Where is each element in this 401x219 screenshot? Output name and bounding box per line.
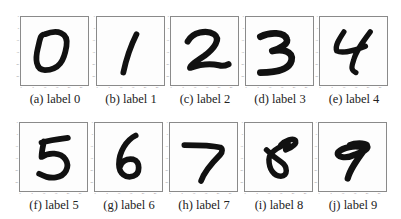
tick: 10 [44, 87, 47, 90]
y-axis-ticks: 0 5 10 15 20 25 [239, 16, 244, 86]
tick: 5 [18, 28, 19, 31]
x-axis-ticks: 0 5 10 15 20 25 [169, 193, 238, 197]
tick: 10 [269, 87, 272, 90]
handwritten-six-image [95, 123, 162, 191]
tick: 20 [166, 170, 169, 173]
x-axis-ticks: 0 5 10 15 20 25 [20, 87, 89, 91]
x-axis-ticks: 0 5 10 15 20 25 [170, 87, 239, 91]
tick: 25 [305, 87, 308, 90]
y-axis-ticks: 0 5 10 15 20 25 [312, 122, 317, 192]
digit-image-frame [245, 16, 314, 86]
tick: 0 [245, 87, 246, 90]
panel-caption: (d) label 3 [239, 92, 321, 107]
y-axis-ticks: 0 5 10 15 20 25 [13, 122, 18, 192]
tick: 20 [242, 64, 245, 67]
tick: 20 [17, 64, 20, 67]
tick: 0 [19, 193, 20, 196]
tick: 15 [281, 87, 284, 90]
tick: 5 [167, 134, 168, 137]
tick: 20 [68, 87, 71, 90]
tick: 25 [304, 193, 307, 196]
tick: 5 [17, 134, 18, 137]
x-axis-ticks: 0 5 10 15 20 25 [319, 87, 388, 91]
tick: 10 [315, 146, 318, 149]
y-axis-ticks: 0 5 10 15 20 25 [163, 122, 168, 192]
tick: 10 [316, 40, 319, 43]
tick: 0 [96, 87, 97, 90]
tick: 10 [167, 40, 170, 43]
tick: 20 [93, 64, 96, 67]
handwritten-zero-image [21, 17, 88, 85]
tick: 15 [91, 158, 94, 161]
panel-caption: (b) label 1 [90, 92, 172, 107]
tick: 10 [194, 87, 197, 90]
tick: 15 [132, 87, 135, 90]
x-axis-ticks: 0 5 10 15 20 25 [96, 87, 165, 91]
tick: 5 [182, 87, 183, 90]
digit-image-frame [318, 122, 387, 192]
panel-caption: (a) label 0 [14, 92, 96, 107]
tick: 10 [242, 40, 245, 43]
tick: 25 [229, 193, 232, 196]
tick: 20 [91, 170, 94, 173]
tick: 0 [243, 16, 244, 19]
y-axis-ticks: 0 5 10 15 20 25 [90, 16, 95, 86]
tick: 5 [108, 87, 109, 90]
y-axis-ticks: 0 5 10 15 20 25 [14, 16, 19, 86]
y-axis-ticks: 0 5 10 15 20 25 [313, 16, 318, 86]
handwritten-seven-image [170, 123, 237, 191]
digit-image-frame [94, 122, 163, 192]
y-axis-ticks: 0 5 10 15 20 25 [238, 122, 243, 192]
tick: 25 [167, 76, 170, 79]
tick: 0 [167, 122, 168, 125]
tick: 10 [118, 193, 121, 196]
tick: 15 [242, 52, 245, 55]
tick: 15 [167, 52, 170, 55]
tick: 5 [168, 28, 169, 31]
tick: 25 [166, 182, 169, 185]
tick: 20 [144, 87, 147, 90]
tick: 15 [316, 52, 319, 55]
tick: 15 [354, 193, 357, 196]
tick: 10 [16, 146, 19, 149]
tick: 10 [17, 40, 20, 43]
tick: 10 [268, 193, 271, 196]
digit-image-frame [319, 16, 388, 86]
tick: 15 [205, 193, 208, 196]
tick: 20 [217, 193, 220, 196]
panel-caption: (e) label 4 [313, 92, 395, 107]
panel-caption: (c) label 2 [164, 92, 246, 107]
tick: 10 [342, 193, 345, 196]
tick: 15 [55, 193, 58, 196]
x-axis-ticks: 0 5 10 15 20 25 [94, 193, 163, 197]
tick: 15 [315, 158, 318, 161]
x-axis-ticks: 0 5 10 15 20 25 [19, 193, 88, 197]
digit-image-frame [170, 16, 239, 86]
tick: 20 [292, 193, 295, 196]
tick: 0 [169, 193, 170, 196]
tick: 10 [120, 87, 123, 90]
tick: 15 [166, 158, 169, 161]
tick: 5 [316, 134, 317, 137]
tick: 15 [93, 52, 96, 55]
tick: 0 [94, 193, 95, 196]
panel-caption: (j) label 9 [312, 198, 394, 213]
tick: 10 [91, 146, 94, 149]
tick: 0 [168, 16, 169, 19]
tick: 25 [16, 182, 19, 185]
panel-caption: (g) label 6 [88, 198, 170, 213]
tick: 0 [242, 122, 243, 125]
tick: 0 [92, 122, 93, 125]
tick: 20 [218, 87, 221, 90]
tick: 25 [154, 193, 157, 196]
tick: 25 [379, 87, 382, 90]
tick: 5 [32, 87, 33, 90]
digit-image-frame [20, 16, 89, 86]
tick: 25 [242, 76, 245, 79]
tick: 20 [315, 170, 318, 173]
tick: 20 [367, 87, 370, 90]
tick: 5 [256, 193, 257, 196]
tick: 15 [241, 158, 244, 161]
tick: 20 [316, 64, 319, 67]
tick: 25 [315, 182, 318, 185]
